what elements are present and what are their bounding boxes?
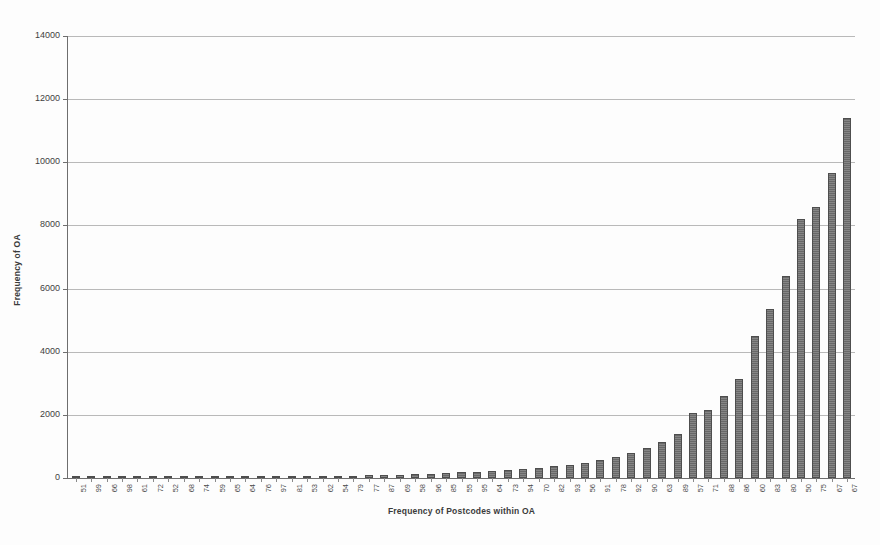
x-axis-title: Frequency of Postcodes within OA	[68, 506, 855, 516]
x-tick-mark	[431, 478, 432, 482]
x-tick-label: 72	[157, 484, 164, 506]
x-tick-mark	[554, 478, 555, 482]
x-tick-mark	[832, 478, 833, 482]
x-tick-mark	[91, 478, 92, 482]
x-tick-label: 62	[327, 484, 334, 506]
x-tick-label: 63	[666, 484, 673, 506]
x-tick-label: 50	[805, 484, 812, 506]
y-tick-label-12000: 12000	[14, 93, 60, 103]
x-tick-label: 55	[466, 484, 473, 506]
x-tick-mark	[600, 478, 601, 482]
x-tick-mark	[739, 478, 740, 482]
x-tick-mark	[245, 478, 246, 482]
x-tick-label: 97	[280, 484, 287, 506]
x-tick-mark	[585, 478, 586, 482]
bars-layer	[68, 36, 855, 478]
x-tick-label: 67	[836, 484, 843, 506]
x-tick-mark	[708, 478, 709, 482]
x-tick-label: 92	[635, 484, 642, 506]
x-tick-label: 76	[265, 484, 272, 506]
x-tick-mark	[770, 478, 771, 482]
x-tick-label: 98	[126, 484, 133, 506]
x-tick-label: 75	[820, 484, 827, 506]
x-tick-label: 93	[574, 484, 581, 506]
plot-area	[68, 36, 855, 478]
bar	[674, 434, 682, 478]
x-tick-label: 77	[373, 484, 380, 506]
x-tick-label: 53	[311, 484, 318, 506]
x-tick-mark	[462, 478, 463, 482]
x-tick-mark	[384, 478, 385, 482]
x-tick-mark	[724, 478, 725, 482]
x-tick-mark	[477, 478, 478, 482]
x-tick-label: 66	[111, 484, 118, 506]
y-tick-label-0: 0	[14, 472, 60, 482]
x-tick-label: 64	[249, 484, 256, 506]
bar	[643, 448, 651, 478]
x-tick-mark	[400, 478, 401, 482]
bar	[782, 276, 790, 478]
x-tick-mark	[153, 478, 154, 482]
x-tick-label: 99	[95, 484, 102, 506]
bar-chart-figure: Frequency of OA 020004000600080001000012…	[0, 0, 880, 545]
bar	[612, 457, 620, 478]
x-tick-label: 79	[357, 484, 364, 506]
x-tick-label: 60	[759, 484, 766, 506]
x-tick-mark	[215, 478, 216, 482]
x-tick-label: 91	[604, 484, 611, 506]
x-tick-mark	[523, 478, 524, 482]
x-tick-mark	[616, 478, 617, 482]
bar	[566, 465, 574, 478]
x-tick-label: 70	[543, 484, 550, 506]
x-tick-mark	[693, 478, 694, 482]
bar	[658, 442, 666, 478]
x-tick-label: 87	[388, 484, 395, 506]
x-tick-label: 51	[80, 484, 87, 506]
bar	[550, 466, 558, 478]
x-tick-mark	[184, 478, 185, 482]
y-tick-label-10000: 10000	[14, 156, 60, 166]
x-axis-tick-labels: 5199669861725268745965647697815362547977…	[68, 484, 855, 506]
bar	[704, 410, 712, 478]
x-tick-label: 90	[651, 484, 658, 506]
x-tick-mark	[647, 478, 648, 482]
bar	[689, 413, 697, 478]
x-tick-mark	[446, 478, 447, 482]
x-tick-mark	[292, 478, 293, 482]
x-tick-label: 78	[620, 484, 627, 506]
x-tick-mark	[122, 478, 123, 482]
bar	[581, 463, 589, 478]
x-tick-label: 74	[203, 484, 210, 506]
x-tick-mark	[338, 478, 339, 482]
bar	[843, 118, 851, 478]
x-tick-mark	[261, 478, 262, 482]
x-tick-mark	[168, 478, 169, 482]
bar	[766, 309, 774, 478]
x-tick-label: 65	[234, 484, 241, 506]
x-tick-label: 69	[404, 484, 411, 506]
x-tick-mark	[678, 478, 679, 482]
x-tick-mark	[492, 478, 493, 482]
x-tick-label: 83	[774, 484, 781, 506]
x-tick-mark	[307, 478, 308, 482]
x-tick-mark	[508, 478, 509, 482]
x-tick-mark	[662, 478, 663, 482]
y-tick-label-8000: 8000	[14, 219, 60, 229]
x-tick-mark	[369, 478, 370, 482]
x-tick-mark	[539, 478, 540, 482]
x-tick-label: 59	[219, 484, 226, 506]
x-tick-label: 52	[172, 484, 179, 506]
x-tick-label: 67	[851, 484, 858, 506]
bar	[751, 336, 759, 478]
x-tick-mark	[230, 478, 231, 482]
x-tick-label: 56	[589, 484, 596, 506]
x-tick-mark	[276, 478, 277, 482]
x-axis-tick-marks	[68, 478, 855, 483]
bar	[627, 453, 635, 478]
x-tick-label: 80	[790, 484, 797, 506]
bar	[504, 470, 512, 478]
x-tick-mark	[786, 478, 787, 482]
x-tick-label: 61	[141, 484, 148, 506]
x-tick-label: 57	[697, 484, 704, 506]
bar	[735, 379, 743, 478]
